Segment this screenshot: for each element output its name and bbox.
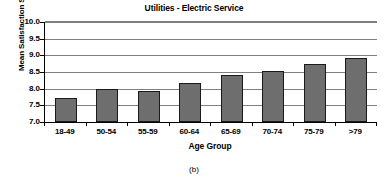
figure-caption: (b)	[0, 165, 388, 174]
x-axis-tick-label: 50-54	[86, 127, 128, 136]
y-axis-tick-mark	[40, 72, 44, 73]
y-axis-tick-label: 9.5	[14, 35, 40, 43]
bar	[179, 83, 201, 122]
x-axis-tick-mark	[127, 123, 128, 126]
x-axis-tick-mark	[44, 123, 45, 126]
y-axis-tick-mark	[40, 22, 44, 23]
x-axis-tick-mark	[210, 123, 211, 126]
x-axis-tick-label: 65-69	[210, 127, 252, 136]
x-axis-tick-label: 18-49	[44, 127, 86, 136]
x-axis-tick-mark	[376, 123, 377, 126]
bar	[221, 75, 243, 122]
plot-area	[44, 22, 377, 123]
y-axis-tick-mark	[40, 39, 44, 40]
x-axis-tick-labels: 18-4950-5455-5960-6465-6970-7475-79>79	[44, 127, 376, 136]
bar-slot	[211, 22, 253, 122]
y-axis-tick-label: 8.5	[14, 68, 40, 76]
y-axis-tick-mark	[40, 89, 44, 90]
x-axis-tick-mark	[335, 123, 336, 126]
x-axis-tick-label: 70-74	[252, 127, 294, 136]
bar	[96, 89, 118, 122]
y-axis-tick-label: 9.0	[14, 51, 40, 59]
y-axis-tick-mark	[40, 55, 44, 56]
y-axis-tick-label: 8.0	[14, 85, 40, 93]
bar-slot	[294, 22, 336, 122]
x-axis-tick-label: 55-59	[127, 127, 169, 136]
bar-slot	[336, 22, 378, 122]
chart-title: Utilities - Electric Service	[0, 3, 388, 13]
bar-slot	[87, 22, 129, 122]
bar-slot	[253, 22, 295, 122]
bar-slot	[170, 22, 212, 122]
x-axis-tick-label: 60-64	[169, 127, 211, 136]
bar	[345, 58, 367, 122]
bar	[138, 91, 160, 122]
y-axis-tick-labels: 7.07.58.08.59.09.510.0	[14, 22, 40, 122]
bar-slot	[128, 22, 170, 122]
y-axis-tick-mark	[40, 122, 44, 123]
x-axis-tick-label: >79	[335, 127, 377, 136]
x-axis-tick-mark	[252, 123, 253, 126]
x-axis-tick-mark	[293, 123, 294, 126]
x-axis-tick-mark	[169, 123, 170, 126]
x-axis-title: Age Group	[44, 141, 376, 151]
y-axis-tick-label: 7.5	[14, 101, 40, 109]
figure-panel-b: Utilities - Electric Service Mean Satisf…	[0, 0, 388, 184]
bar	[304, 64, 326, 122]
x-axis-tick-label: 75-79	[293, 127, 335, 136]
y-axis-tick-label: 7.0	[14, 118, 40, 126]
bar	[262, 71, 284, 122]
bar-slot	[45, 22, 87, 122]
y-axis-tick-mark	[40, 105, 44, 106]
bar-series	[45, 22, 377, 122]
bar	[55, 98, 77, 122]
x-axis-tick-mark	[86, 123, 87, 126]
y-axis-tick-label: 10.0	[14, 18, 40, 26]
